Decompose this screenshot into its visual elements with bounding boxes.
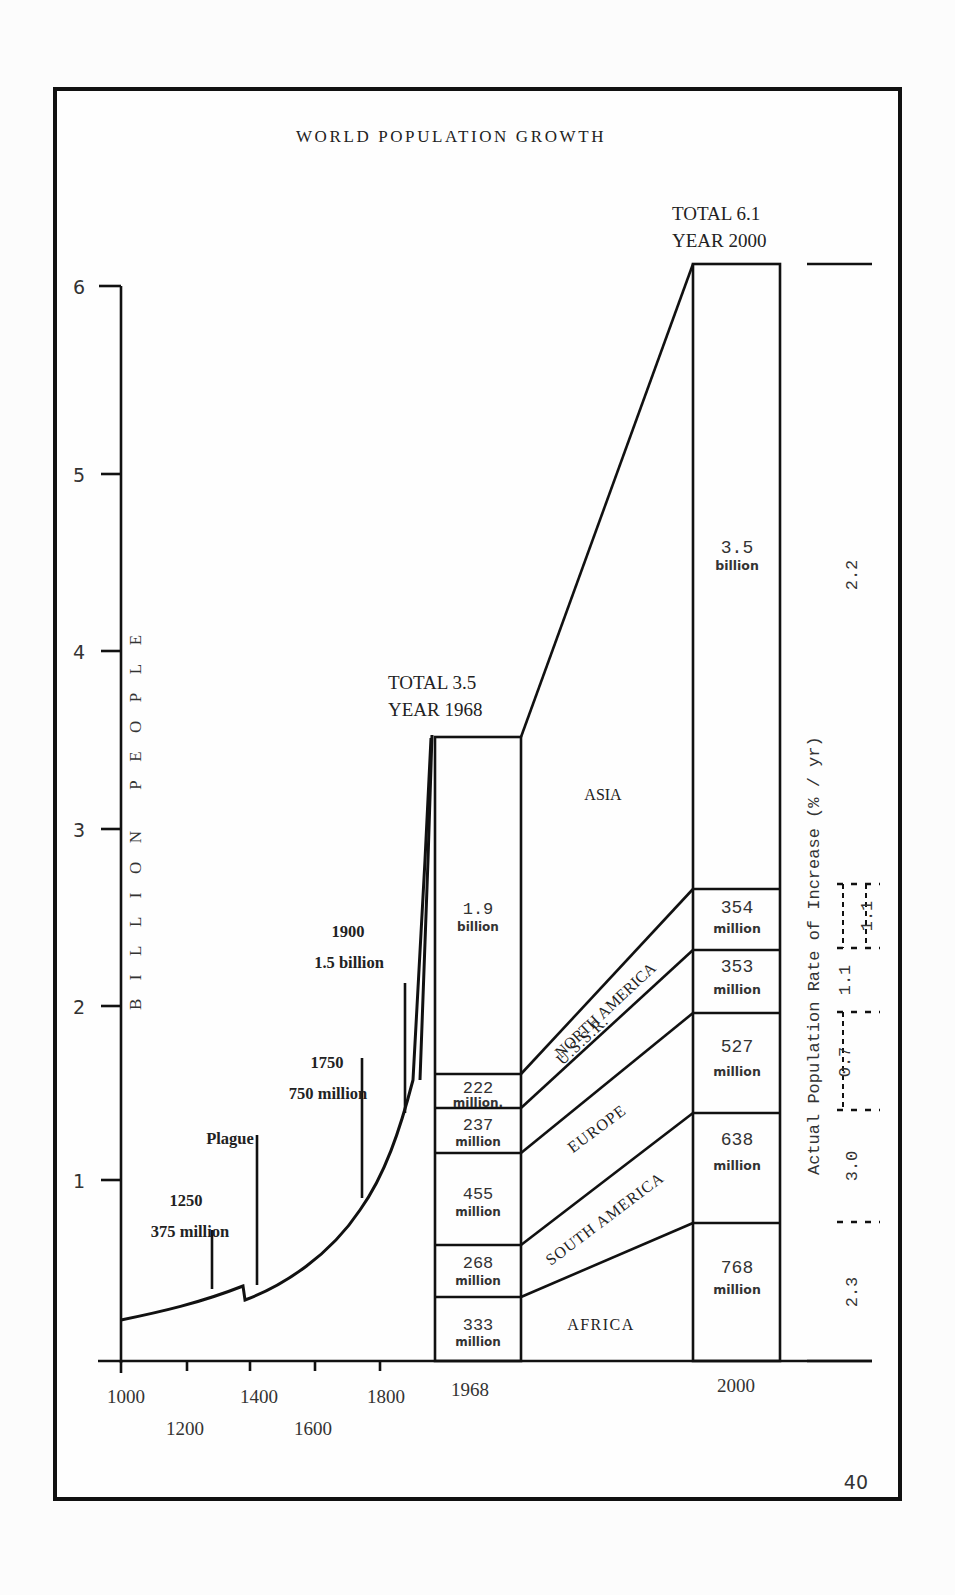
chart-title: WORLD POPULATION GROWTH bbox=[296, 127, 606, 146]
svg-text:1.5 billion: 1.5 billion bbox=[314, 953, 384, 972]
svg-text:4: 4 bbox=[73, 641, 85, 663]
svg-text:237: 237 bbox=[463, 1116, 494, 1135]
svg-text:1: 1 bbox=[73, 1170, 85, 1192]
svg-text:3: 3 bbox=[73, 819, 85, 841]
svg-text:375 million: 375 million bbox=[151, 1222, 229, 1241]
svg-text:million: million bbox=[455, 1135, 501, 1149]
svg-text:1600: 1600 bbox=[294, 1418, 332, 1439]
svg-text:billion: billion bbox=[457, 920, 499, 934]
svg-text:billion: billion bbox=[715, 558, 759, 573]
svg-text:1800: 1800 bbox=[367, 1386, 405, 1407]
svg-text:768: 768 bbox=[721, 1258, 753, 1278]
svg-text:million: million bbox=[713, 1158, 761, 1173]
svg-text:353: 353 bbox=[721, 957, 753, 977]
svg-text:AFRICA: AFRICA bbox=[567, 1316, 635, 1333]
svg-text:YEAR 2000: YEAR 2000 bbox=[672, 230, 766, 251]
svg-text:million: million bbox=[713, 982, 761, 997]
svg-text:6: 6 bbox=[73, 276, 85, 298]
svg-text:million: million bbox=[455, 1335, 501, 1349]
svg-text:million.: million. bbox=[453, 1096, 503, 1110]
svg-text:2.3: 2.3 bbox=[843, 1277, 862, 1308]
svg-text:million: million bbox=[455, 1205, 501, 1219]
svg-text:3.0: 3.0 bbox=[843, 1151, 862, 1182]
svg-text:2: 2 bbox=[73, 996, 85, 1018]
svg-text:1250: 1250 bbox=[170, 1191, 203, 1210]
svg-text:0.7: 0.7 bbox=[836, 1047, 855, 1078]
svg-text:1.9: 1.9 bbox=[463, 900, 494, 919]
chart-canvas: WORLD POPULATION GROWTH 1 2 3 4 5 6 BILL… bbox=[0, 0, 955, 1595]
svg-text:5: 5 bbox=[73, 464, 85, 486]
svg-text:527: 527 bbox=[721, 1037, 753, 1057]
svg-text:1200: 1200 bbox=[166, 1418, 204, 1439]
svg-text:1.1: 1.1 bbox=[836, 965, 855, 996]
svg-text:Plague: Plague bbox=[206, 1129, 254, 1148]
page-number: 40 bbox=[844, 1471, 868, 1493]
svg-text:268: 268 bbox=[463, 1254, 494, 1273]
svg-text:million: million bbox=[713, 921, 761, 936]
svg-text:1750: 1750 bbox=[311, 1053, 344, 1072]
svg-text:1900: 1900 bbox=[332, 922, 365, 941]
svg-text:million: million bbox=[713, 1282, 761, 1297]
svg-text:million: million bbox=[455, 1274, 501, 1288]
svg-text:million: million bbox=[713, 1064, 761, 1079]
svg-text:1968: 1968 bbox=[451, 1379, 489, 1400]
svg-text:638: 638 bbox=[721, 1130, 753, 1150]
svg-text:750 million: 750 million bbox=[289, 1084, 367, 1103]
svg-text:1.1: 1.1 bbox=[858, 901, 877, 932]
svg-text:TOTAL 6.1: TOTAL 6.1 bbox=[672, 203, 760, 224]
svg-text:1400: 1400 bbox=[240, 1386, 278, 1407]
y-axis-label: BILLION PEOPLE bbox=[126, 616, 145, 1010]
svg-text:2.2: 2.2 bbox=[843, 560, 862, 591]
svg-text:455: 455 bbox=[463, 1185, 494, 1204]
rate-axis-label: Actual Population Rate of Increase (% / … bbox=[805, 736, 824, 1175]
svg-text:2000: 2000 bbox=[717, 1375, 755, 1396]
svg-text:1000: 1000 bbox=[107, 1386, 145, 1407]
svg-text:ASIA: ASIA bbox=[584, 786, 622, 803]
svg-text:TOTAL 3.5: TOTAL 3.5 bbox=[388, 672, 476, 693]
svg-text:3.5: 3.5 bbox=[721, 538, 753, 558]
svg-text:333: 333 bbox=[463, 1316, 494, 1335]
svg-text:354: 354 bbox=[721, 898, 753, 918]
svg-text:YEAR 1968: YEAR 1968 bbox=[388, 699, 482, 720]
